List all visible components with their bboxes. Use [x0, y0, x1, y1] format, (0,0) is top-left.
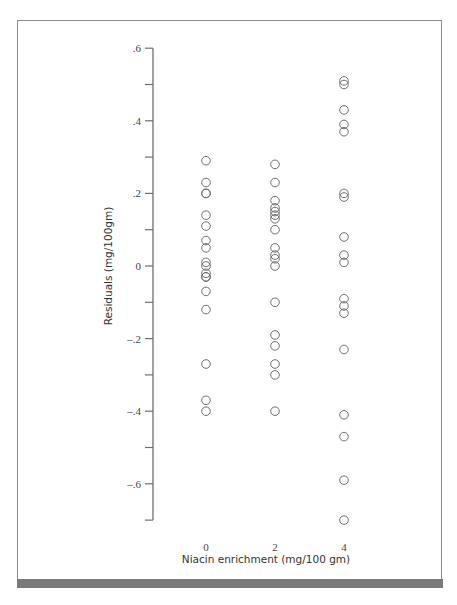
data-point	[340, 106, 349, 115]
data-point	[340, 411, 349, 420]
data-point	[340, 516, 349, 525]
scatter-plot: .6.4.20–.2–.4–.6 024 Niacin enrichment (…	[0, 0, 457, 605]
data-point	[271, 331, 280, 340]
x-axis-tick-labels: 024	[203, 541, 347, 553]
data-point	[202, 156, 211, 165]
y-tick-label: –.6	[126, 478, 141, 490]
data-point	[340, 345, 349, 354]
x-tick-label: 2	[272, 541, 278, 553]
data-point	[340, 432, 349, 441]
data-point	[271, 178, 280, 187]
y-tick-label: –.4	[126, 405, 141, 417]
y-axis-title: Residuals (mg/100gm)	[102, 207, 114, 326]
y-tick-label: 0	[136, 260, 142, 272]
data-point	[340, 476, 349, 485]
data-point	[271, 371, 280, 380]
data-point	[202, 305, 211, 314]
y-tick-label: .4	[133, 115, 142, 127]
data-point	[202, 407, 211, 416]
y-tick-label: .2	[133, 187, 141, 199]
data-point	[202, 287, 211, 296]
y-tick-label: .6	[133, 42, 142, 54]
data-point	[202, 360, 211, 369]
data-point	[271, 225, 280, 234]
data-point	[271, 407, 280, 416]
data-point	[271, 360, 280, 369]
data-point	[271, 160, 280, 169]
data-point	[271, 342, 280, 351]
data-point	[202, 189, 211, 198]
data-point	[340, 233, 349, 242]
x-tick-label: 4	[341, 541, 347, 553]
data-point	[202, 211, 211, 220]
data-point	[271, 298, 280, 307]
data-points	[202, 77, 349, 525]
y-axis: .6.4.20–.2–.4–.6	[126, 42, 153, 520]
data-point	[202, 222, 211, 231]
data-point	[202, 396, 211, 405]
x-axis-title: Niacin enrichment (mg/100 gm)	[182, 553, 350, 565]
data-point	[202, 178, 211, 187]
y-tick-label: –.2	[126, 333, 141, 345]
x-tick-label: 0	[203, 541, 209, 553]
